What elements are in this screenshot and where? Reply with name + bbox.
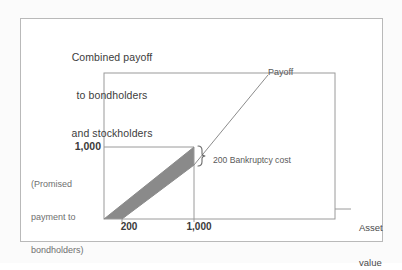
- chart-stage: Combined payoff to bondholders and stock…: [21, 19, 382, 241]
- y-axis-note: (Promised payment to bondholders): [31, 157, 111, 270]
- y-axis-tick-label-1000: 1,000: [39, 140, 101, 153]
- chart-title-line-1: Combined payoff: [37, 51, 187, 64]
- figure-card: Combined payoff to bondholders and stock…: [20, 18, 383, 242]
- x-axis-label-line-2: value: [359, 257, 402, 269]
- y-axis-note-line-2: payment to: [31, 212, 111, 223]
- series-label-payoff: Payoff: [268, 67, 293, 78]
- x-axis-label-line-1: Asset: [359, 222, 402, 234]
- x-axis-tick-label-200: 200: [109, 221, 149, 233]
- y-axis-note-line-1: (Promised: [31, 179, 111, 190]
- chart-title-line-3: and stockholders: [37, 127, 187, 140]
- payoff-line-lower: [122, 165, 194, 219]
- x-axis-tick-label-1000: 1,000: [175, 221, 223, 233]
- chart-title-line-2: to bondholders: [37, 89, 187, 102]
- bankruptcy-cost-annotation: 200 Bankruptcy cost: [213, 155, 291, 165]
- x-axis-label: Asset value: [359, 199, 402, 270]
- y-axis-note-line-3: bondholders): [31, 245, 111, 256]
- payoff-line-upper: [194, 75, 268, 165]
